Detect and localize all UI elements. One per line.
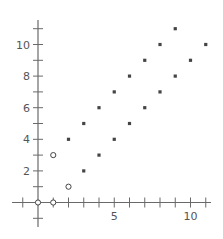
y-tick-label: 8 (23, 70, 30, 83)
square-marker (174, 27, 177, 30)
square-marker (82, 122, 85, 125)
y-tick-label: 10 (16, 39, 30, 52)
square-marker (128, 122, 131, 125)
square-marker (97, 106, 100, 109)
open-circle-marker (66, 184, 71, 189)
x-tick-label: 10 (184, 210, 198, 223)
square-marker (113, 138, 116, 141)
square-marker (128, 75, 131, 78)
x-tick-label: 5 (111, 210, 118, 223)
square-marker (97, 154, 100, 157)
scatter-plot: 510246810 (0, 0, 223, 239)
open-circle-marker (51, 200, 56, 205)
square-marker (174, 75, 177, 78)
square-marker (143, 106, 146, 109)
plot-area: 510246810 (0, 0, 223, 239)
y-tick-label: 2 (23, 165, 30, 178)
open-circle-marker (51, 153, 56, 158)
square-marker (113, 90, 116, 93)
open-circle-marker (35, 200, 40, 205)
square-marker (82, 169, 85, 172)
square-marker (143, 59, 146, 62)
square-marker (204, 43, 207, 46)
tick-labels: 510246810 (16, 39, 198, 223)
axis-ticks (23, 29, 206, 219)
y-tick-label: 4 (23, 133, 30, 146)
square-marker (158, 43, 161, 46)
square-marker (67, 138, 70, 141)
square-marker (189, 59, 192, 62)
data-points (35, 27, 207, 205)
y-tick-label: 6 (23, 102, 30, 115)
square-marker (158, 90, 161, 93)
